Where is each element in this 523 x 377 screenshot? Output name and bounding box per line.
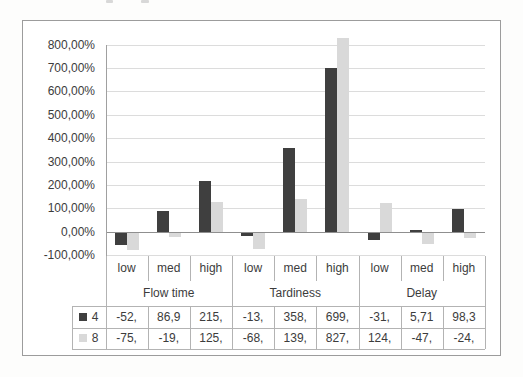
table-value-series-8-col3: 125, — [190, 328, 232, 350]
table-value-series-8-col6: 827, — [316, 328, 358, 350]
bar-series-4-low — [368, 233, 380, 240]
group-label: Flow time — [106, 281, 233, 307]
y-axis-tick-label: 800,00% — [22, 37, 95, 53]
bar-series-8-high — [337, 38, 349, 231]
y-axis-tick-label: 100,00% — [22, 200, 95, 216]
y-axis-tick-label: 400,00% — [22, 130, 95, 146]
group-label: Delay — [359, 281, 486, 307]
table-value-series-8-col9: -24, — [443, 328, 485, 350]
y-axis-tick-label: 700,00% — [22, 60, 95, 76]
table-value-series-4-col7: -31, — [359, 306, 401, 328]
bar-series-4-high — [452, 209, 464, 232]
table-column-border — [485, 306, 486, 349]
y-axis-tick-label: 500,00% — [22, 107, 95, 123]
table-value-series-4-col6: 699, — [316, 306, 358, 328]
category-label-med: med — [274, 256, 316, 281]
category-label-high: high — [316, 256, 358, 281]
bar-series-8-high — [211, 202, 223, 231]
bar-series-8-low — [127, 233, 139, 251]
table-value-series-4-col4: -13, — [232, 306, 274, 328]
table-value-series-4-col3: 215, — [190, 306, 232, 328]
bar-series-8-med — [422, 233, 434, 244]
gridline — [106, 45, 486, 46]
table-value-series-8-col7: 124, — [359, 328, 401, 350]
bar-series-4-low — [115, 233, 127, 245]
bar-series-8-med — [169, 233, 181, 237]
table-value-series-8-col8: -47, — [401, 328, 443, 350]
y-axis-tick-label: 0,00% — [22, 224, 95, 240]
bar-series-4-med — [410, 230, 422, 231]
y-axis-tick-label: -100,00% — [22, 247, 95, 263]
table-column-border — [485, 256, 486, 307]
category-label-low: low — [359, 256, 401, 281]
table-value-series-8-col4: -68, — [232, 328, 274, 350]
gridline — [106, 162, 486, 163]
bar-series-8-low — [253, 233, 265, 249]
category-label-low: low — [106, 256, 148, 281]
y-axis-tick-label: 200,00% — [22, 177, 95, 193]
table-value-series-4-col1: -52, — [106, 306, 148, 328]
legend-key-series-8 — [79, 334, 87, 342]
category-label-low: low — [232, 256, 274, 281]
group-label: Tardiness — [232, 281, 359, 307]
table-value-series-4-col5: 358, — [274, 306, 316, 328]
table-value-series-8-col2: -19, — [148, 328, 190, 350]
gridline — [106, 68, 486, 69]
gridline — [106, 91, 486, 92]
scanned-chart-page: 800,00%700,00%600,00%500,00%400,00%300,0… — [0, 0, 523, 377]
category-label-med: med — [148, 256, 190, 281]
legend-label-series-4: 4 — [92, 310, 99, 324]
bar-series-4-med — [283, 148, 295, 232]
category-label-med: med — [401, 256, 443, 281]
legend-entry-series-4: 4 — [72, 306, 106, 328]
y-axis-tick-label: 300,00% — [22, 154, 95, 170]
category-label-high: high — [190, 256, 232, 281]
legend-entry-series-8: 8 — [72, 328, 106, 350]
bar-series-4-low — [241, 233, 253, 236]
bar-series-4-med — [157, 211, 169, 231]
legend-label-series-8: 8 — [92, 331, 99, 345]
chart-plot-and-table: 800,00%700,00%600,00%500,00%400,00%300,0… — [0, 0, 523, 377]
gridline — [106, 138, 486, 139]
category-label-high: high — [443, 256, 485, 281]
y-axis-tick-label: 600,00% — [22, 83, 95, 99]
bar-series-4-high — [325, 68, 337, 231]
table-value-series-8-col5: 139, — [274, 328, 316, 350]
legend-key-series-4 — [79, 313, 87, 321]
table-value-series-8-col1: -75, — [106, 328, 148, 350]
table-value-series-4-col9: 98,3 — [443, 306, 485, 328]
bar-series-8-high — [464, 233, 476, 239]
gridline — [106, 115, 486, 116]
bar-series-8-med — [295, 199, 307, 231]
table-row-border — [72, 349, 485, 350]
gridline — [106, 185, 486, 186]
bar-series-4-high — [199, 181, 211, 231]
table-value-series-4-col2: 86,9 — [148, 306, 190, 328]
table-value-series-4-col8: 5,71 — [401, 306, 443, 328]
bar-series-8-low — [380, 203, 392, 232]
